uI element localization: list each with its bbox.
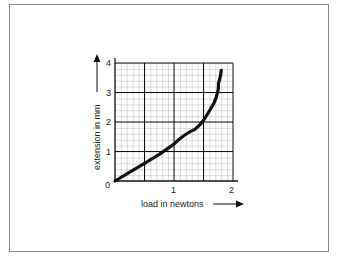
y-arrow-icon <box>94 54 101 92</box>
x-tick-2: 2 <box>229 185 234 195</box>
grid <box>115 63 233 181</box>
x-arrow-icon <box>213 201 244 208</box>
y-tick-1: 1 <box>106 147 111 157</box>
chart-svg: 0 1 2 1 2 3 4 load in newtons extension … <box>0 0 337 261</box>
y-tick-2: 2 <box>106 117 111 127</box>
origin-label: 0 <box>105 180 110 190</box>
y-tick-4: 4 <box>106 58 111 68</box>
y-tick-3: 3 <box>106 88 111 98</box>
x-axis-label: load in newtons <box>141 199 204 209</box>
x-tick-1: 1 <box>171 185 176 195</box>
y-axis-label: extension in mm <box>92 104 102 170</box>
